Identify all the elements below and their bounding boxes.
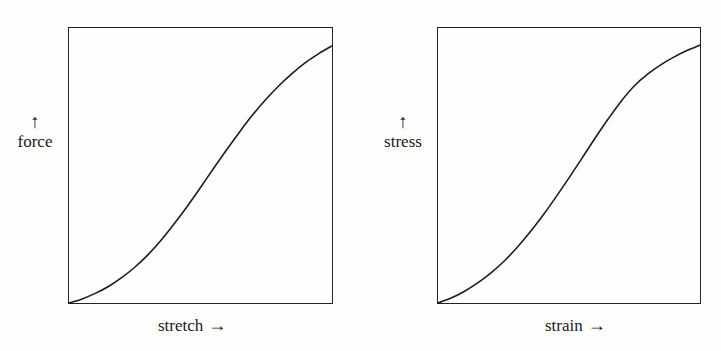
arrow-right-icon: → xyxy=(208,315,226,335)
x-axis-label-strain: strain→ xyxy=(545,316,606,334)
arrow-up-icon: ↑ xyxy=(6,112,64,131)
x-axis-title-strain: strain xyxy=(545,316,583,335)
y-axis-title-force: force xyxy=(6,132,64,151)
panel-stress-strain: ↑ stress strain→ xyxy=(360,0,721,351)
y-axis-title-stress: stress xyxy=(372,132,434,151)
y-axis-label-force: ↑ force xyxy=(6,112,64,151)
y-axis-label-stress: ↑ stress xyxy=(372,112,434,151)
plot-frame-force-stretch xyxy=(68,27,333,304)
x-axis-label-stretch: stretch→ xyxy=(158,316,226,334)
x-axis-title-stretch: stretch xyxy=(158,316,203,335)
arrow-right-icon: → xyxy=(588,315,606,335)
panel-force-stretch: ↑ force stretch→ xyxy=(0,0,360,351)
figure-canvas: ↑ force stretch→ ↑ stress strain→ xyxy=(0,0,721,351)
plot-frame-stress-strain xyxy=(437,27,701,304)
arrow-up-icon: ↑ xyxy=(372,112,434,131)
